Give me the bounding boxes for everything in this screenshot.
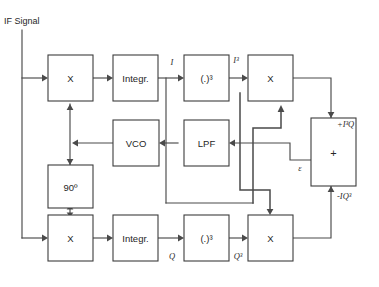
- signal-label-q-cubed: Q³: [234, 251, 243, 261]
- block-mixer-i-label: X: [67, 73, 74, 84]
- block-mixer-q-label: X: [67, 233, 74, 244]
- arrow-crossmult-q-to-adder: [328, 186, 335, 192]
- arrow-cross-q-to-crossmult-i: [278, 105, 285, 112]
- signal-label-adder-top: +I³Q: [337, 119, 354, 129]
- block-crossmult-i-label: X: [267, 73, 274, 84]
- arrow-integrator-i-to-cube-i: [178, 75, 184, 82]
- arrow-cube-i-to-crossmult-i: [242, 75, 248, 82]
- arrow-if-to-mixer-i: [42, 75, 48, 82]
- arrow-lpf-to-vco: [159, 140, 165, 147]
- block-cube-q-label: (.)³: [200, 233, 212, 244]
- block-vco-label: VCO: [126, 138, 147, 149]
- wire-cross-i-to-crossmult-q: [240, 93, 270, 209]
- arrow-adder-to-lpf: [229, 140, 235, 147]
- block-lpf-label: LPF: [198, 138, 216, 149]
- arrow-vco-to-bus: [72, 140, 78, 147]
- signal-label-q: Q: [169, 251, 175, 261]
- block-integrator-q-label: Integr.: [122, 233, 148, 244]
- wire-crossmult-q-to-adder: [293, 186, 331, 238]
- arrow-cube-q-to-crossmult-q: [242, 235, 248, 242]
- arrow-lo-to-phase-shift: [67, 159, 74, 165]
- block-crossmult-q-label: X: [267, 233, 274, 244]
- arrow-lo-to-mixer-i: [67, 104, 74, 110]
- signal-label-adder-bottom: -IQ³: [337, 191, 352, 201]
- signal-label-i-cubed: I³: [232, 55, 239, 65]
- wire-crossmult-i-to-adder: [293, 78, 331, 118]
- arrow-if-to-mixer-q: [42, 235, 48, 242]
- arrow-mixer-q-to-integrator-q: [107, 235, 113, 242]
- block-adder-label: +: [330, 147, 336, 159]
- block-cube-i-label: (.)³: [200, 73, 212, 84]
- input-signal-label: IF Signal: [4, 16, 40, 26]
- arrow-integrator-q-to-cube-q: [178, 235, 184, 242]
- arrow-cross-i-to-crossmult-q: [267, 209, 274, 215]
- wire-adder-to-lpf: [235, 143, 311, 160]
- signal-label-error: ε: [298, 163, 302, 173]
- arrow-crossmult-i-to-adder: [328, 112, 335, 118]
- block-diagram-svg: X Integr. (.)³ X VCO LPF + 90º X Integr.…: [0, 0, 379, 287]
- block-integrator-i-label: Integr.: [122, 73, 148, 84]
- block-phase-shift-label: 90º: [63, 182, 78, 193]
- block-diagram-canvas: X Integr. (.)³ X VCO LPF + 90º X Integr.…: [0, 0, 379, 287]
- signal-label-i: I: [170, 57, 175, 67]
- arrow-mixer-i-to-integrator-i: [107, 75, 113, 82]
